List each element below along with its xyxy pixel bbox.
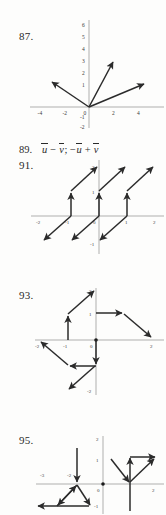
diagonal-arrow-2 [99, 167, 125, 191]
xtick-neg4: -4 [38, 110, 43, 116]
figure-93: -2 -1 0 2 1 2 -2 [27, 285, 166, 397]
exercise-number-89: 89. [19, 144, 32, 155]
arrow-down-right [124, 314, 151, 337]
right-cluster-diag-up-right [130, 459, 154, 482]
right-cluster-diag-from-y1 [111, 459, 129, 482]
arrow-up-right-to-top [68, 291, 94, 314]
xtick-2: 2 [150, 344, 153, 349]
ytick-1: 1 [96, 458, 99, 463]
ytick-3: 3 [82, 58, 85, 64]
left-cluster-up-right [57, 486, 76, 506]
vector-right [89, 84, 144, 107]
diagonal-arrow-1 [71, 167, 97, 191]
xtick-1: 1 [125, 220, 128, 225]
plus-op: + [85, 144, 91, 155]
ytick-5: 5 [82, 34, 85, 40]
figure-87: -4 -2 0 2 4 6 5 4 3 2 1 -1 -2 [27, 18, 166, 130]
ytick-1: 1 [92, 190, 95, 195]
ytick-neg2: -2 [80, 124, 85, 130]
down-left-arrow-1 [44, 216, 71, 240]
xtick-neg2: -2 [35, 344, 40, 349]
left-cluster-diag-down-right [77, 485, 90, 505]
ytick-neg2: -2 [87, 389, 92, 394]
origin-dot [101, 482, 105, 486]
xtick-neg2: -2 [36, 220, 41, 225]
figure-91-svg: -2 -1 0 1 2 1 2 -1 [27, 158, 166, 256]
down-left-arrow-2 [72, 216, 99, 240]
xtick-2: 2 [112, 110, 115, 116]
exercise-page: 87. -4 -2 0 2 4 6 5 4 3 2 1 -1 -2 [0, 0, 166, 515]
figure-93-svg: -2 -1 0 2 1 2 -2 [27, 285, 166, 397]
down-left-arrow-3 [100, 216, 127, 240]
vector-v-2: v [93, 143, 99, 155]
vector-up-right [89, 62, 113, 107]
vector-u-1: u [41, 143, 47, 155]
xtick-4: 4 [137, 110, 140, 116]
xtick-neg1: -1 [63, 344, 68, 349]
ytick-6: 6 [82, 22, 85, 28]
xtick-neg3: -3 [40, 473, 45, 478]
figure-91: -2 -1 0 1 2 1 2 -1 [27, 158, 166, 256]
xtick-2: 2 [152, 488, 155, 493]
figure-95-svg: -3 -2 0 2 1 2 -1 [20, 424, 166, 515]
xtick-0: 0 [90, 344, 93, 349]
ytick-4: 4 [82, 46, 85, 52]
ytick-neg1: -1 [90, 242, 95, 247]
figure-95: -3 -2 0 2 1 2 -1 [20, 424, 166, 515]
ytick-neg1: -1 [94, 504, 99, 509]
xtick-neg2: -2 [62, 110, 67, 116]
ytick-1: 1 [89, 312, 92, 317]
xtick-2: 2 [153, 220, 156, 225]
minus-op-1: − [50, 144, 56, 155]
figure-87-svg: -4 -2 0 2 4 6 5 4 3 2 1 -1 -2 [27, 18, 166, 130]
ytick-2: 2 [96, 437, 99, 442]
exercise-89-line: 89. u − v; −u + v [19, 143, 99, 155]
ytick-1: 1 [82, 82, 85, 88]
semicolon: ; [64, 144, 67, 155]
xtick-0: 0 [97, 488, 100, 493]
diagonal-arrow-3 [127, 167, 153, 191]
ytick-2: 2 [82, 70, 85, 76]
vector-u-2: u [76, 143, 82, 155]
xtick-neg2: -2 [67, 473, 72, 478]
arrow-down-left-to-bottom [69, 366, 95, 389]
ytick-neg1: -1 [80, 114, 85, 120]
